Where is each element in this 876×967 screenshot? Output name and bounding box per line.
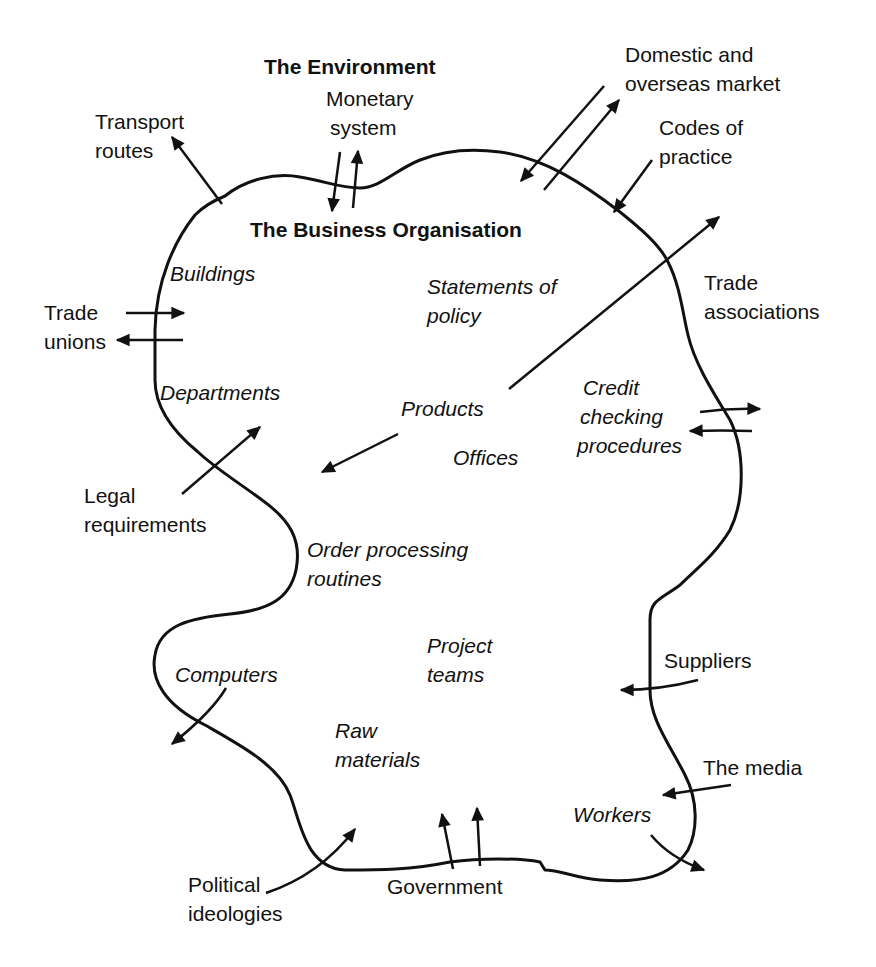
arrow-media: [663, 785, 731, 795]
label-line: checking: [577, 402, 682, 431]
label-line: Workers: [573, 800, 651, 829]
arrow-credit-out: [700, 409, 760, 412]
label-line: Monetary: [326, 84, 414, 113]
label-credit-checking-procedures: Credit checking procedures: [577, 373, 682, 460]
label-line: Order processing: [307, 535, 468, 564]
label-line: overseas market: [625, 69, 780, 98]
label-line: Domestic and: [625, 40, 780, 69]
label-raw-materials: Raw materials: [335, 716, 420, 774]
label-suppliers: Suppliers: [664, 646, 752, 675]
arrow-monetary-in: [332, 152, 340, 211]
label-transport-routes: Transport routes: [95, 107, 184, 165]
label-line: Trade: [44, 298, 106, 327]
label-offices: Offices: [453, 443, 518, 472]
arrow-monetary-out: [353, 151, 358, 208]
label-monetary-system: Monetary system: [326, 84, 414, 142]
label-line: The media: [703, 753, 802, 782]
label-domestic-overseas-market: Domestic and overseas market: [625, 40, 780, 98]
organisation-title: The Business Organisation: [250, 215, 522, 244]
label-order-processing-routines: Order processing routines: [307, 535, 468, 593]
label-line: Departments: [160, 378, 280, 407]
label-line: Transport: [95, 107, 184, 136]
label-line: Computers: [175, 660, 278, 689]
label-line: teams: [427, 660, 492, 689]
label-codes-of-practice: Codes of practice: [659, 113, 743, 171]
label-line: Suppliers: [664, 646, 752, 675]
label-line: unions: [44, 327, 106, 356]
label-line: Offices: [453, 443, 518, 472]
arrow-codes-of-practice: [614, 160, 652, 212]
label-line: procedures: [577, 431, 682, 460]
label-line: ideologies: [188, 899, 283, 928]
arrow-products-in: [322, 434, 398, 472]
label-line: Trade: [704, 268, 820, 297]
environment-title: The Environment: [264, 52, 436, 81]
label-buildings: Buildings: [170, 259, 255, 288]
label-government: Government: [387, 872, 503, 901]
arrow-credit-in: [690, 431, 752, 432]
label-trade-unions: Trade unions: [44, 298, 106, 356]
arrow-suppliers: [621, 680, 698, 690]
arrow-government-1: [442, 814, 453, 869]
label-line: Statements of: [427, 272, 557, 301]
arrow-government-2: [477, 808, 480, 866]
label-line: Codes of: [659, 113, 743, 142]
label-line: Credit: [577, 373, 682, 402]
label-line: Buildings: [170, 259, 255, 288]
arrow-computers: [172, 688, 226, 744]
label-line: materials: [335, 745, 420, 774]
label-legal-requirements: Legal requirements: [84, 481, 207, 539]
label-trade-associations: Trade associations: [704, 268, 820, 326]
label-line: system: [326, 113, 414, 142]
label-line: Products: [401, 394, 484, 423]
label-line: Government: [387, 872, 503, 901]
label-workers: Workers: [573, 800, 651, 829]
label-line: associations: [704, 297, 820, 326]
label-line: Political: [188, 870, 283, 899]
label-departments: Departments: [160, 378, 280, 407]
arrow-workers: [651, 835, 704, 870]
label-project-teams: Project teams: [427, 631, 492, 689]
label-computers: Computers: [175, 660, 278, 689]
label-products: Products: [401, 394, 484, 423]
label-line: routines: [307, 564, 468, 593]
label-political-ideologies: Political ideologies: [188, 870, 283, 928]
label-line: Raw: [335, 716, 420, 745]
label-line: Legal: [84, 481, 207, 510]
label-line: policy: [427, 301, 557, 330]
label-the-media: The media: [703, 753, 802, 782]
label-statements-of-policy: Statements of policy: [427, 272, 557, 330]
label-line: requirements: [84, 510, 207, 539]
label-line: routes: [95, 136, 184, 165]
label-line: Project: [427, 631, 492, 660]
label-line: practice: [659, 142, 743, 171]
